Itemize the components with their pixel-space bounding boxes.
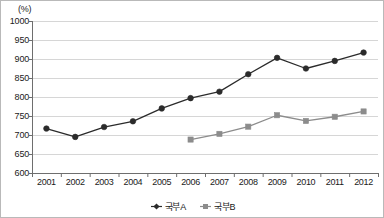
x-axis-tick-label: 2007 — [210, 177, 229, 187]
diamond-marker-icon — [151, 202, 162, 211]
x-axis-tick-labels: 2001200220032004200520062007200820092010… — [1, 177, 384, 191]
x-axis-tick-label: 2004 — [123, 177, 142, 187]
y-axis-tick-label: 750 — [0, 111, 29, 121]
legend-label: 국부B — [214, 200, 235, 213]
x-axis-tick-label: 2008 — [239, 177, 258, 187]
x-axis-tick-label: 2012 — [354, 177, 373, 187]
y-axis-tick-label: 850 — [0, 73, 29, 83]
data-series — [44, 50, 367, 142]
legend-item-series-b[interactable]: 국부B — [200, 200, 235, 213]
square-marker-icon — [200, 202, 211, 211]
x-axis-tick-label: 2011 — [326, 177, 344, 187]
y-axis-tick-label: 650 — [0, 149, 29, 159]
x-axis-tick-label: 2009 — [268, 177, 287, 187]
y-axis-tick-label: 1000 — [0, 16, 29, 26]
y-axis-tick-label: 800 — [0, 92, 29, 102]
line-chart: (%) 1000950900850800750700650600 2001200… — [0, 0, 384, 218]
x-axis-tick-label: 2006 — [181, 177, 200, 187]
x-axis-tick-label: 2002 — [66, 177, 85, 187]
y-axis-tick-label: 950 — [0, 35, 29, 45]
legend-label: 국부A — [165, 200, 186, 213]
legend-item-series-a[interactable]: 국부A — [151, 200, 186, 213]
x-axis-tick-label: 2010 — [296, 177, 315, 187]
x-axis-tick-label: 2001 — [37, 177, 56, 187]
x-axis-tick-label: 2003 — [95, 177, 114, 187]
gridlines — [32, 22, 378, 174]
chart-legend: 국부A국부B — [1, 197, 384, 215]
x-axis-tick-label: 2005 — [152, 177, 171, 187]
y-axis-tick-label: 900 — [0, 54, 29, 64]
y-axis-tick-label: 700 — [0, 130, 29, 140]
